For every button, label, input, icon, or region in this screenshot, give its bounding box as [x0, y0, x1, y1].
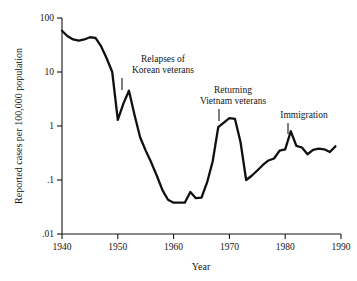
x-tick-label: 1980 [276, 242, 295, 252]
figure-container: 100101.1.01 194019501960197019801990 Rel… [0, 0, 357, 281]
line-chart: 100101.1.01 194019501960197019801990 Rel… [0, 0, 357, 281]
y-tick-label: .1 [47, 175, 54, 185]
y-axis-ticks: 100101.1.01 [40, 13, 62, 239]
y-tick-label: 1 [49, 121, 54, 131]
annotation-label-vietnam-veterans-line2: Vietnam veterans [200, 96, 266, 106]
y-tick-label: 100 [40, 13, 55, 23]
y-tick-label: 10 [45, 67, 55, 77]
x-tick-label: 1960 [164, 242, 183, 252]
x-tick-label: 1940 [53, 242, 72, 252]
annotation-label-korean-veterans: Relapses of [141, 54, 186, 64]
annotation-label-immigration: Immigration [280, 110, 328, 120]
x-axis-title: Year [192, 261, 211, 272]
x-tick-label: 1950 [108, 242, 127, 252]
annotation-label-vietnam-veterans: Returning [214, 85, 252, 95]
x-tick-label: 1990 [332, 242, 351, 252]
x-tick-label: 1970 [220, 242, 239, 252]
y-axis-title: Reported cases per 100,000 population [13, 48, 24, 204]
x-axis-ticks: 194019501960197019801990 [53, 234, 351, 252]
y-tick-label: .01 [42, 229, 54, 239]
annotation-label-korean-veterans-line2: Korean veterans [132, 65, 194, 75]
